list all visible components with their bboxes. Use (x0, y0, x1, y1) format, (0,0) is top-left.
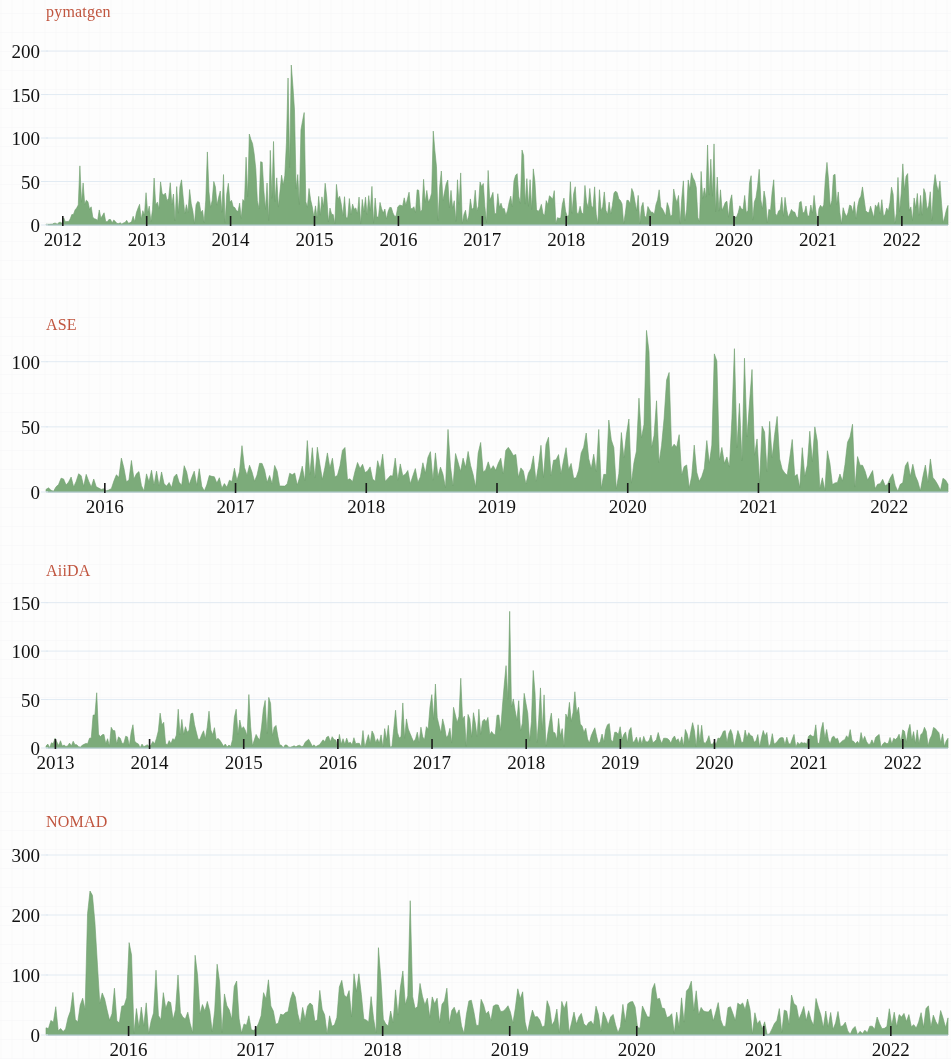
plot-area-ase (0, 0, 951, 1059)
panel-aiida: AiiDA 0501001502013201420152016201720182… (0, 0, 951, 1059)
ytick-label: 100 (0, 353, 40, 372)
area-series-pymatgen (46, 65, 948, 225)
xtick-label: 2019 (465, 497, 529, 516)
ytick-label: 200 (0, 42, 40, 61)
xtick-label: 2022 (871, 753, 935, 772)
xtick-label: 2022 (870, 230, 934, 249)
panel-ase: ASE 0501002016201720182019202020212022 (0, 0, 951, 1059)
ytick-label: 150 (0, 594, 40, 613)
xtick-label: 2020 (702, 230, 766, 249)
xtick-label: 2016 (97, 1040, 161, 1059)
xtick-label: 2022 (859, 1040, 923, 1059)
xtick-label: 2013 (23, 753, 87, 772)
panel-title-nomad: NOMAD (46, 813, 107, 831)
plot-area-nomad (0, 0, 951, 1059)
xtick-label: 2020 (596, 497, 660, 516)
xtick-label: 2018 (334, 497, 398, 516)
xtick-label: 2017 (400, 753, 464, 772)
xtick-label: 2021 (726, 497, 790, 516)
ytick-label: 0 (0, 1026, 40, 1045)
panel-title-pymatgen: pymatgen (46, 3, 111, 21)
ytick-label: 0 (0, 739, 40, 758)
xtick-label: 2015 (283, 230, 347, 249)
figure-page: pymatgen 0501001502002012201320142015201… (0, 0, 951, 1059)
area-series-nomad (46, 891, 948, 1035)
xtick-label: 2014 (199, 230, 263, 249)
area-series-ase (46, 330, 948, 492)
xtick-label: 2020 (605, 1040, 669, 1059)
panel-title-ase: ASE (46, 316, 77, 334)
panel-nomad: NOMAD 0100200300201620172018201920202021… (0, 0, 951, 1059)
xtick-label: 2018 (494, 753, 558, 772)
plot-area-aiida (0, 0, 951, 1059)
xtick-label: 2017 (224, 1040, 288, 1059)
xtick-label: 2022 (857, 497, 921, 516)
ytick-label: 150 (0, 86, 40, 105)
ytick-label: 200 (0, 906, 40, 925)
xtick-label: 2013 (115, 230, 179, 249)
xtick-label: 2019 (618, 230, 682, 249)
area-series-aiida (46, 611, 948, 748)
xtick-label: 2019 (588, 753, 652, 772)
xtick-label: 2014 (118, 753, 182, 772)
ytick-label: 100 (0, 129, 40, 148)
xtick-label: 2015 (212, 753, 276, 772)
xtick-label: 2018 (351, 1040, 415, 1059)
ytick-label: 50 (0, 173, 40, 192)
ytick-label: 50 (0, 691, 40, 710)
ytick-label: 0 (0, 483, 40, 502)
paper-texture (0, 0, 951, 1059)
xtick-label: 2016 (366, 230, 430, 249)
xtick-label: 2016 (73, 497, 137, 516)
xtick-label: 2017 (204, 497, 268, 516)
xtick-label: 2018 (534, 230, 598, 249)
ytick-label: 300 (0, 846, 40, 865)
xtick-label: 2021 (732, 1040, 796, 1059)
ytick-label: 50 (0, 418, 40, 437)
xtick-label: 2012 (31, 230, 95, 249)
xtick-label: 2021 (777, 753, 841, 772)
panel-pymatgen: pymatgen 0501001502002012201320142015201… (0, 0, 951, 1059)
ytick-label: 100 (0, 642, 40, 661)
ytick-label: 0 (0, 216, 40, 235)
xtick-label: 2016 (306, 753, 370, 772)
xtick-label: 2017 (450, 230, 514, 249)
xtick-label: 2021 (786, 230, 850, 249)
ytick-label: 100 (0, 966, 40, 985)
panel-title-aiida: AiiDA (46, 562, 91, 580)
plot-area-pymatgen (0, 0, 951, 1059)
xtick-label: 2020 (682, 753, 746, 772)
xtick-label: 2019 (478, 1040, 542, 1059)
